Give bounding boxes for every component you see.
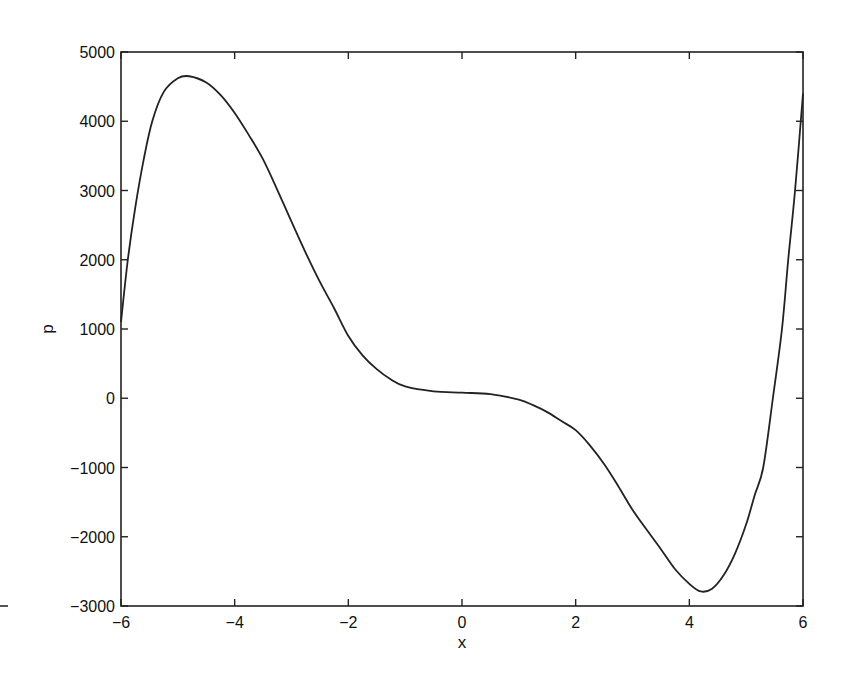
y-tick-label: 4000 (79, 113, 115, 130)
x-tick-label: 2 (571, 614, 580, 631)
line-chart: −6−4−20246 −3000−2000−100001000200030004… (0, 0, 842, 678)
y-tick-label: 5000 (79, 44, 115, 61)
plot-area-border (121, 52, 803, 606)
y-tick-label: 1000 (79, 321, 115, 338)
data-line-p (121, 76, 803, 592)
x-tick-label: −4 (226, 614, 244, 631)
x-tick-label: 0 (458, 614, 467, 631)
x-tick-label: 4 (685, 614, 694, 631)
y-axis-label: p (38, 324, 57, 333)
y-tick-label: 3000 (79, 183, 115, 200)
plot-frame (121, 52, 803, 606)
x-tick-label: 6 (799, 614, 808, 631)
x-tick-label: −6 (112, 614, 130, 631)
y-tick-label: −1000 (70, 460, 115, 477)
y-tick-label: −2000 (70, 529, 115, 546)
y-tick-label: 0 (106, 390, 115, 407)
x-axis-ticks: −6−4−20246 (112, 52, 808, 631)
x-tick-label: −2 (339, 614, 357, 631)
y-tick-label: 2000 (79, 252, 115, 269)
y-axis-ticks: −3000−2000−1000010002000300040005000 (70, 44, 803, 615)
x-axis-label: x (458, 633, 467, 652)
y-tick-label: −3000 (70, 598, 115, 615)
